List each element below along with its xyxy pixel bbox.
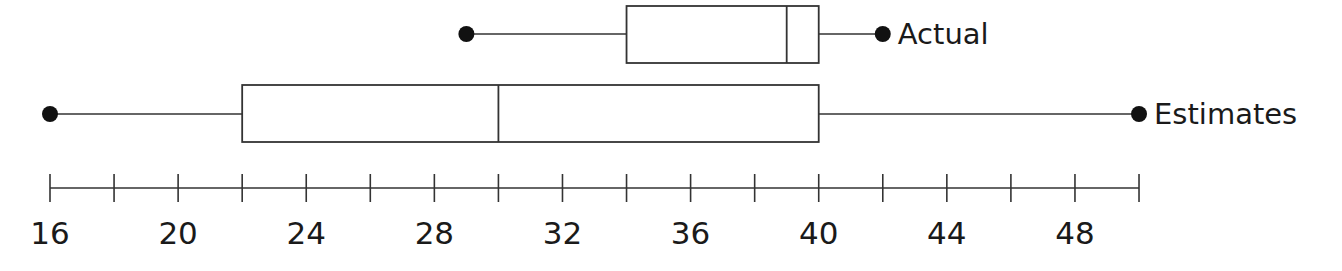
box-plots: ActualEstimates — [42, 6, 1297, 142]
min-dot-icon — [42, 106, 58, 122]
tick-label: 28 — [415, 215, 454, 251]
tick-label: 44 — [927, 215, 966, 251]
min-dot-icon — [458, 26, 474, 42]
interquartile-box — [627, 6, 819, 63]
boxplot-actual: Actual — [458, 6, 988, 63]
series-label: Estimates — [1154, 97, 1297, 131]
boxplot-estimates: Estimates — [42, 85, 1297, 142]
series-label: Actual — [898, 17, 989, 51]
max-dot-icon — [1131, 106, 1147, 122]
max-dot-icon — [875, 26, 891, 42]
tick-label: 48 — [1055, 215, 1094, 251]
interquartile-box — [242, 85, 819, 142]
box-plot-chart: ActualEstimates 162024283236404448 — [0, 0, 1342, 271]
number-line-axis: 162024283236404448 — [30, 174, 1139, 251]
tick-label: 36 — [671, 215, 710, 251]
tick-label: 24 — [287, 215, 326, 251]
tick-label: 40 — [799, 215, 838, 251]
tick-label: 32 — [543, 215, 582, 251]
tick-label: 20 — [158, 215, 197, 251]
tick-label: 16 — [30, 215, 69, 251]
